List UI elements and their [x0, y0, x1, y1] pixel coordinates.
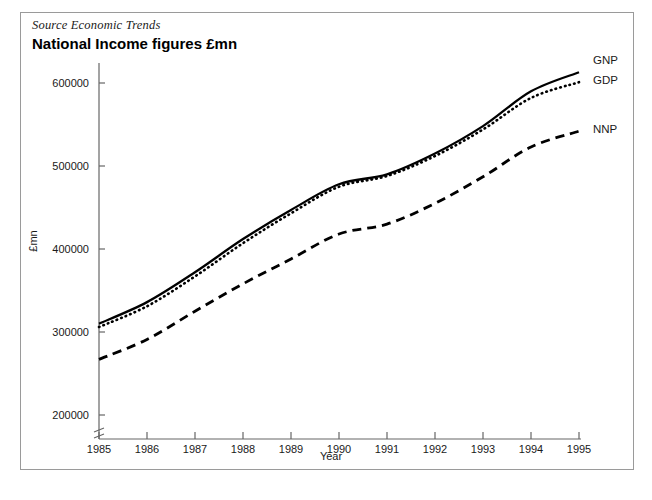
chart-figure: Source Economic Trends National Income f…	[20, 12, 634, 470]
line-chart-canvas	[21, 13, 635, 471]
x-axis-tick-label: 1992	[423, 443, 447, 455]
x-axis-tick-label: 1993	[471, 443, 495, 455]
series-label-nnp: NNP	[593, 123, 617, 135]
x-axis-tick-label: 1994	[519, 443, 543, 455]
y-axis-tick-label: 600000	[21, 77, 89, 89]
data-series-group	[99, 72, 579, 359]
y-axis-tick-label: 200000	[21, 409, 89, 421]
y-axis-tick-label: 300000	[21, 326, 89, 338]
x-axis-tick-label: 1986	[135, 443, 159, 455]
y-axis-tick-label: 500000	[21, 160, 89, 172]
x-axis-tick-label: 1990	[327, 443, 351, 455]
x-axis-tick-label: 1987	[183, 443, 207, 455]
plot-area: £mn Year 200000300000400000500000600000 …	[21, 13, 635, 471]
x-axis-tick-label: 1991	[375, 443, 399, 455]
y-axis-ticks	[99, 83, 105, 415]
axes	[94, 63, 581, 439]
series-label-gnp: GNP	[593, 54, 618, 66]
x-axis-tick-label: 1988	[231, 443, 255, 455]
x-axis-tick-label: 1989	[279, 443, 303, 455]
series-line-nnp	[99, 131, 579, 359]
x-axis-tick-label: 1985	[87, 443, 111, 455]
x-axis-ticks	[99, 432, 579, 439]
y-axis-tick-label: 400000	[21, 243, 89, 255]
series-label-gdp: GDP	[593, 74, 618, 86]
series-line-gnp	[99, 72, 579, 323]
x-axis-tick-label: 1995	[567, 443, 591, 455]
series-line-gdp	[99, 82, 579, 327]
